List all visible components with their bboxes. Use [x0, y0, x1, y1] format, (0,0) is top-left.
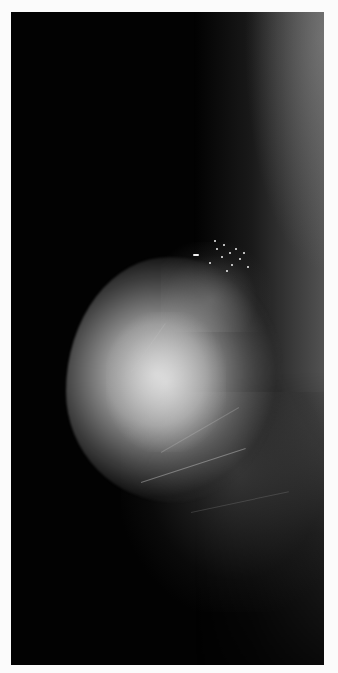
pectoral-highlight	[244, 12, 324, 272]
dense-tissue-core	[106, 312, 226, 452]
mammogram-image	[11, 12, 324, 665]
